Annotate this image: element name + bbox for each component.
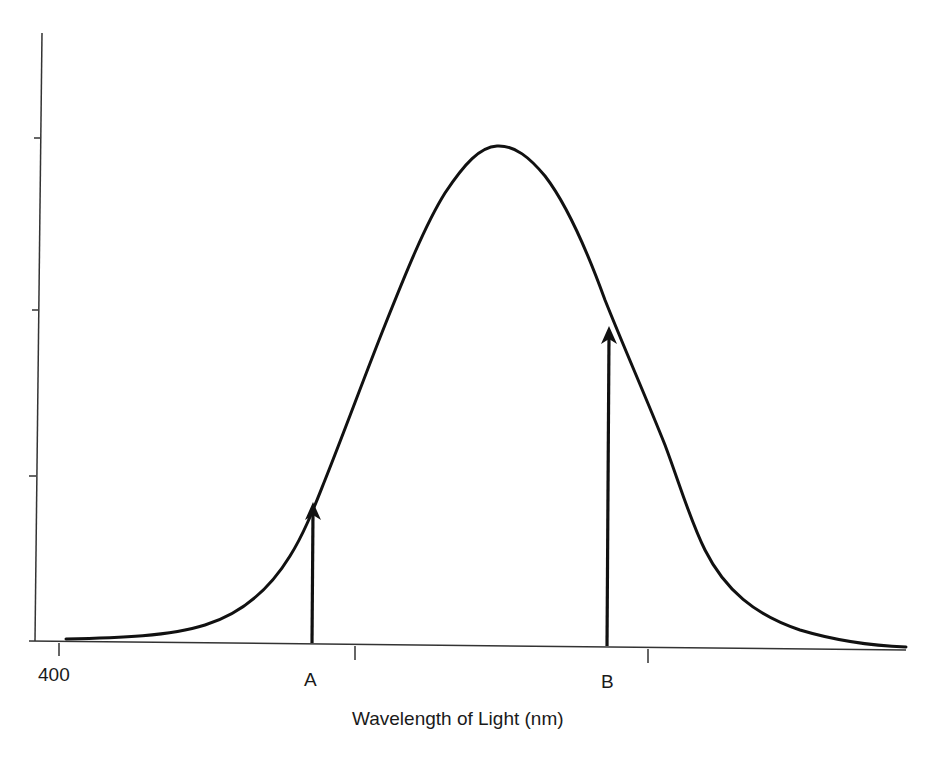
x-axis xyxy=(29,641,906,650)
point-a-label: A xyxy=(304,669,317,691)
point-b-label: B xyxy=(601,671,614,693)
bell-curve xyxy=(66,146,906,647)
chart-canvas xyxy=(0,0,936,766)
arrow-a xyxy=(312,512,313,643)
x-axis-title: Wavelength of Light (nm) xyxy=(352,708,564,730)
x-tick-label-400: 400 xyxy=(38,664,70,686)
arrow-b xyxy=(607,336,609,646)
y-axis xyxy=(35,33,42,641)
